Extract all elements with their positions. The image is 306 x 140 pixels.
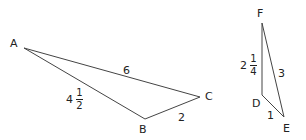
side-ac-label: 6 <box>123 65 130 76</box>
vertex-c-label: C <box>205 91 213 102</box>
side-fd-label: 2 1 4 <box>240 54 257 77</box>
side-fe-label: 3 <box>278 68 285 79</box>
side-fd-whole: 2 <box>240 59 247 72</box>
vertex-f-label: F <box>257 8 263 19</box>
diagram-canvas <box>0 0 306 140</box>
side-ab-whole: 4 <box>66 93 73 106</box>
vertex-d-label: D <box>252 98 260 109</box>
vertex-e-label: E <box>283 123 290 134</box>
side-ab-fraction: 1 2 <box>76 88 83 111</box>
side-ab-label: 4 1 2 <box>66 88 83 111</box>
side-de-label: 1 <box>267 110 274 121</box>
vertex-b-label: B <box>139 124 147 135</box>
side-ab-numerator: 1 <box>76 88 82 98</box>
side-ab-denominator: 2 <box>76 101 82 111</box>
side-fd-numerator: 1 <box>250 54 256 64</box>
side-fd-fraction: 1 4 <box>250 54 257 77</box>
side-bc-label: 2 <box>178 112 185 123</box>
vertex-a-label: A <box>10 38 18 49</box>
triangle-abc <box>24 48 200 119</box>
side-fd-denominator: 4 <box>250 67 256 77</box>
